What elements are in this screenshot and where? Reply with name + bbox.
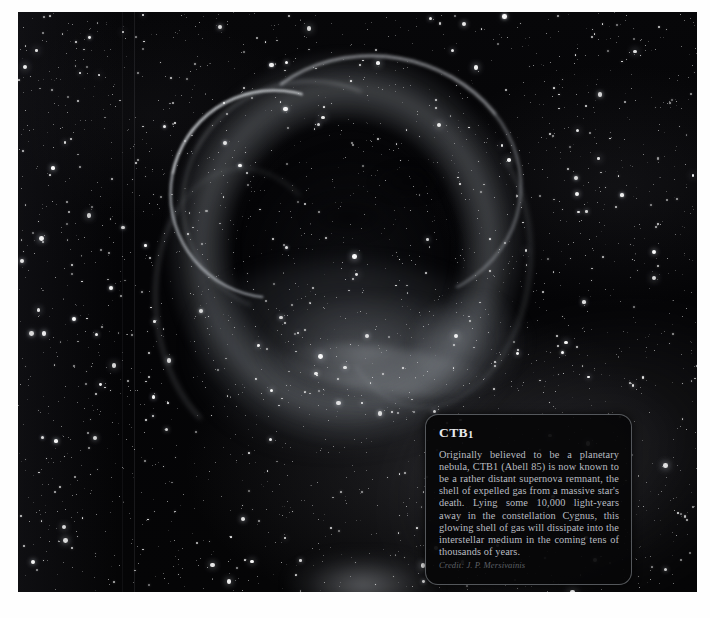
star-faint: [664, 132, 665, 133]
star-faint: [293, 310, 294, 311]
star-faint: [41, 469, 42, 470]
star-faint: [230, 220, 231, 221]
star-medium: [227, 395, 229, 397]
star-faint: [293, 61, 294, 62]
star-medium: [594, 33, 595, 34]
star-faint: [519, 150, 520, 151]
star-faint: [318, 405, 319, 406]
star-faint: [657, 344, 658, 345]
star-medium: [77, 154, 78, 155]
star-faint: [338, 125, 339, 126]
star-faint: [689, 54, 690, 55]
star-faint: [23, 77, 24, 78]
star-faint: [638, 583, 639, 584]
star-faint: [264, 177, 265, 178]
star-bright: [93, 436, 97, 440]
star-faint: [410, 210, 411, 211]
star-faint: [157, 241, 158, 242]
star-faint: [186, 17, 187, 18]
star-medium: [497, 43, 499, 45]
star-faint: [58, 96, 59, 97]
star-medium: [251, 97, 253, 99]
star-medium: [25, 45, 26, 46]
star-medium: [43, 560, 44, 561]
star-faint: [605, 289, 606, 290]
star-faint: [235, 434, 236, 435]
star-bright: [37, 308, 40, 311]
star-faint: [587, 85, 588, 86]
star-faint: [235, 384, 236, 385]
star-faint: [160, 316, 161, 317]
star-medium: [419, 194, 421, 196]
star-medium: [144, 460, 146, 462]
star-faint: [407, 67, 408, 68]
star-faint: [655, 385, 656, 386]
star-faint: [328, 420, 329, 421]
star-faint: [403, 87, 404, 88]
star-faint: [573, 144, 574, 145]
star-faint: [508, 263, 509, 264]
star-faint: [654, 350, 655, 351]
star-faint: [509, 241, 510, 242]
star-medium: [657, 223, 659, 225]
star-faint: [410, 355, 411, 356]
star-faint: [245, 115, 246, 116]
star-faint: [496, 353, 497, 354]
star-faint: [542, 117, 543, 118]
star-faint: [630, 165, 631, 166]
star-faint: [242, 454, 243, 455]
star-medium: [259, 209, 261, 211]
star-medium: [70, 138, 72, 140]
star-faint: [399, 167, 400, 168]
star-faint: [507, 214, 508, 215]
star-faint: [444, 48, 445, 49]
star-faint: [604, 204, 605, 205]
star-medium: [397, 412, 399, 414]
star-bright: [31, 560, 35, 564]
star-faint: [110, 49, 111, 50]
star-medium: [438, 409, 439, 410]
star-medium: [657, 157, 659, 159]
star-faint: [438, 406, 439, 407]
star-medium: [284, 322, 286, 324]
star-medium: [286, 163, 288, 165]
star-faint: [234, 68, 235, 69]
star-faint: [563, 373, 564, 374]
star-medium: [223, 196, 225, 198]
star-faint: [363, 290, 364, 291]
star-faint: [194, 341, 195, 342]
star-medium: [25, 459, 27, 461]
star-faint: [420, 315, 421, 316]
star-faint: [402, 306, 403, 307]
star-faint: [76, 48, 77, 49]
star-faint: [345, 157, 346, 158]
star-faint: [84, 263, 85, 264]
star-faint: [414, 440, 415, 441]
star-faint: [285, 443, 286, 444]
star-medium: [119, 100, 120, 101]
star-faint: [152, 171, 153, 172]
star-faint: [363, 186, 364, 187]
star-faint: [528, 256, 529, 257]
star-faint: [553, 375, 554, 376]
star-medium: [287, 127, 289, 129]
star-faint: [218, 14, 219, 15]
star-faint: [268, 416, 269, 417]
star-faint: [286, 517, 287, 518]
star-faint: [402, 102, 403, 103]
star-faint: [221, 193, 222, 194]
star-bright: [63, 538, 68, 543]
star-faint: [320, 590, 321, 591]
star-medium: [607, 50, 609, 52]
star-faint: [298, 93, 299, 94]
star-faint: [278, 211, 279, 212]
star-medium: [142, 126, 143, 127]
star-faint: [331, 534, 332, 535]
star-faint: [276, 431, 277, 432]
star-medium: [493, 388, 495, 390]
star-faint: [19, 453, 20, 454]
star-faint: [517, 117, 518, 118]
star-faint: [220, 121, 221, 122]
star-faint: [622, 167, 623, 168]
star-bright: [152, 395, 156, 399]
